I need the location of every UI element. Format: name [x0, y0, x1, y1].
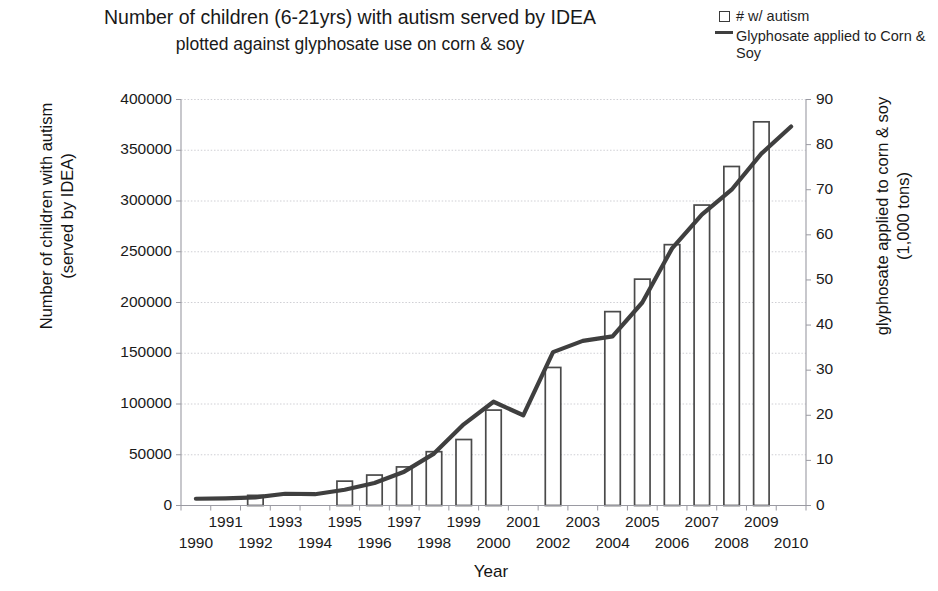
bar-1995 — [337, 481, 352, 505]
x-tick-1999: 1999 — [436, 513, 492, 531]
x-tick-2010: 2010 — [763, 534, 819, 552]
y-left-tick-400000: 400000 — [120, 90, 172, 108]
x-tick-1991: 1991 — [198, 513, 254, 531]
x-tick-1998: 1998 — [406, 534, 462, 552]
y-right-tick-80: 80 — [816, 135, 833, 153]
bar-2000 — [486, 410, 501, 505]
y-left-tick-300000: 300000 — [120, 191, 172, 209]
y-left-tick-100000: 100000 — [120, 394, 172, 412]
bar-2008 — [724, 166, 739, 505]
y-right-tick-50: 50 — [816, 270, 833, 288]
y-right-tick-70: 70 — [816, 180, 833, 198]
bar-2006 — [664, 245, 679, 506]
y-left-tick-250000: 250000 — [120, 242, 172, 260]
bar-1999 — [456, 440, 471, 506]
y-right-tick-0: 0 — [816, 496, 825, 514]
y-axis-left-title: Number of children with autism (served b… — [36, 76, 78, 356]
bars-group — [248, 122, 769, 506]
x-tick-1992: 1992 — [227, 534, 283, 552]
x-tick-2006: 2006 — [644, 534, 700, 552]
y-left-tick-0: 0 — [163, 496, 172, 514]
bar-2005 — [635, 279, 650, 505]
x-tick-2004: 2004 — [585, 534, 641, 552]
x-tick-1994: 1994 — [287, 534, 343, 552]
y-right-tick-90: 90 — [816, 90, 833, 108]
y-left-tick-350000: 350000 — [120, 140, 172, 158]
x-tick-2005: 2005 — [614, 513, 670, 531]
x-tick-1995: 1995 — [317, 513, 373, 531]
x-tick-2001: 2001 — [495, 513, 551, 531]
y-right-tick-40: 40 — [816, 315, 833, 333]
y-left-tick-200000: 200000 — [120, 293, 172, 311]
x-axis-title: Year — [181, 562, 801, 582]
y-right-tick-60: 60 — [816, 225, 833, 243]
y-left-tick-150000: 150000 — [120, 343, 172, 361]
x-tick-1996: 1996 — [346, 534, 402, 552]
bar-2004 — [605, 312, 620, 506]
x-tick-1997: 1997 — [376, 513, 432, 531]
bar-2007 — [694, 205, 709, 505]
bar-2009 — [754, 122, 769, 506]
x-tick-2008: 2008 — [704, 534, 760, 552]
y-right-tick-20: 20 — [816, 405, 833, 423]
x-tick-2007: 2007 — [674, 513, 730, 531]
x-tick-2009: 2009 — [733, 513, 789, 531]
x-tick-2000: 2000 — [466, 534, 522, 552]
y-axis-right-title: glyphosate applied to corn & soy (1,000 … — [872, 76, 914, 356]
x-tick-2003: 2003 — [555, 513, 611, 531]
x-tick-2002: 2002 — [525, 534, 581, 552]
bar-1998 — [426, 452, 441, 506]
bar-2002 — [545, 367, 560, 505]
x-tick-1990: 1990 — [168, 534, 224, 552]
y-right-tick-10: 10 — [816, 450, 833, 468]
y-left-tick-50000: 50000 — [129, 445, 172, 463]
chart-plot-area: Number of children with autism (served b… — [0, 0, 938, 591]
x-tick-1993: 1993 — [257, 513, 313, 531]
y-right-tick-30: 30 — [816, 360, 833, 378]
